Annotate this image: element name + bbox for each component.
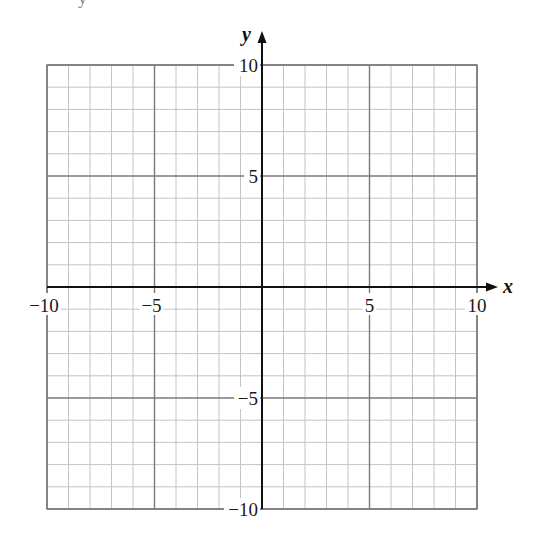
y-tick-label: 5 [249,166,259,187]
y-tick-label: −10 [228,499,258,520]
y-axis-arrow-icon [258,31,267,43]
x-tick-labels: −10−5510 [27,293,489,316]
x-tick-label: −10 [29,295,59,316]
x-tick-label: 10 [468,295,487,316]
y-tick-label: −5 [238,388,258,409]
y-axis-label: y [240,23,251,46]
coordinate-plane: −10−5510 105−5−10 x y [0,0,535,550]
x-tick-label: 5 [365,295,375,316]
x-tick-label: −5 [141,295,161,316]
x-axis-arrow-icon [486,283,498,292]
y-tick-label: 10 [239,55,258,76]
axes [47,31,498,509]
x-axis-label: x [502,275,513,297]
